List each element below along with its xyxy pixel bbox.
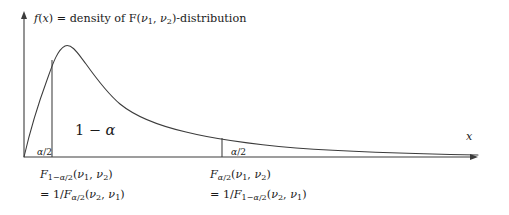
y-axis-arrowhead — [21, 11, 27, 19]
x-axis-label: x — [466, 130, 473, 143]
figure-title: f(x) = density of F(ν1, ν2)-distribution — [33, 12, 246, 26]
upper-quantile-caption-line1: Fα/2(ν1, ν2) — [209, 168, 271, 182]
quantile-lines-group — [52, 60, 222, 157]
density-curve-group — [24, 46, 478, 157]
f-density-curve — [24, 46, 478, 157]
central-probability-label: 1 − α — [75, 122, 116, 138]
lower-quantile-caption-line2: = 1/Fα/2(ν2, ν1) — [40, 188, 125, 202]
left-tail-probability-label: α/2 — [37, 147, 52, 157]
right-tail-probability-label: α/2 — [231, 147, 246, 157]
upper-quantile-caption: Fα/2(ν1, ν2) = 1/F1−α/2(ν2, ν1) — [209, 168, 307, 202]
figure-canvas: f(x) = density of F(ν1, ν2)-distribution… — [0, 0, 509, 215]
lower-quantile-caption-line1: F1−α/2(ν1, ν2) — [39, 168, 113, 182]
upper-quantile-caption-line2: = 1/F1−α/2(ν2, ν1) — [210, 188, 307, 202]
lower-quantile-caption: F1−α/2(ν1, ν2) = 1/Fα/2(ν2, ν1) — [39, 168, 125, 202]
f-distribution-figure: f(x) = density of F(ν1, ν2)-distribution… — [0, 0, 509, 215]
